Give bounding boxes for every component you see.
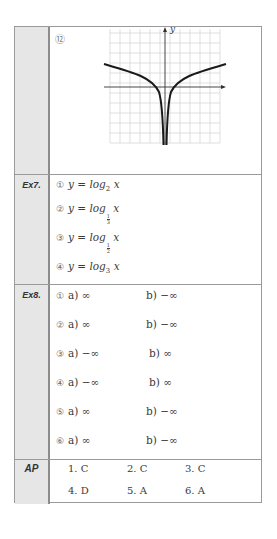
row-graph: ⑫ [15, 27, 261, 174]
ex7-item-4: ④y = log3 x [56, 260, 120, 272]
ex8-item-6: ⑥a) ∞b) −∞ [56, 434, 90, 446]
y-axis-label: y [170, 24, 175, 34]
row-ex7: Ex7. ①y = log2 x ②y = log13 x ③y = log12… [15, 174, 261, 285]
ex8-item-5: ⑤a) ∞b) −∞ [56, 405, 90, 417]
ex7-item-2: ②y = log13 x [56, 202, 119, 225]
ex8-item-2: ②a) ∞b) −∞ [56, 318, 90, 330]
label-cell: Ex8. [15, 285, 50, 460]
row-label: AP [15, 463, 48, 474]
label-cell [15, 27, 50, 174]
ap-answer-1: 1. C [68, 463, 88, 474]
ap-answer-3: 3. C [185, 463, 205, 474]
log-abs-graph [102, 27, 232, 149]
ap-answer-2: 2. C [127, 463, 147, 474]
ex8-item-1: ①a) ∞b) −∞ [56, 289, 90, 301]
item-number: ⑫ [55, 31, 65, 46]
row-ap: AP 1. C 2. C 3. C 4. D 5. A 6. A [15, 459, 261, 504]
row-ex8: Ex8. ①a) ∞b) −∞ ②a) ∞b) −∞ ③a) −∞b) ∞ ④a… [15, 284, 261, 460]
label-cell: Ex7. [15, 175, 50, 285]
ap-content: 1. C 2. C 3. C 4. D 5. A 6. A [50, 460, 261, 504]
ex7-item-3: ③y = log12 x [56, 231, 119, 254]
ap-answer-4: 4. D [68, 485, 89, 496]
ap-answer-5: 5. A [127, 485, 147, 496]
label-cell: AP [15, 460, 50, 504]
ap-answer-6: 6. A [185, 485, 205, 496]
answer-table: ⑫ [14, 26, 262, 503]
ex8-content: ①a) ∞b) −∞ ②a) ∞b) −∞ ③a) −∞b) ∞ ④a) −∞b… [50, 285, 261, 460]
ex7-item-1: ①y = log2 x [56, 178, 120, 190]
row-label: Ex8. [15, 290, 48, 300]
ex8-item-3: ③a) −∞b) ∞ [56, 347, 99, 359]
row-label: Ex7. [15, 180, 48, 190]
ex7-content: ①y = log2 x ②y = log13 x ③y = log12 x ④y… [50, 175, 261, 285]
ex8-item-4: ④a) −∞b) ∞ [56, 376, 99, 388]
graph-content: ⑫ [50, 27, 261, 174]
